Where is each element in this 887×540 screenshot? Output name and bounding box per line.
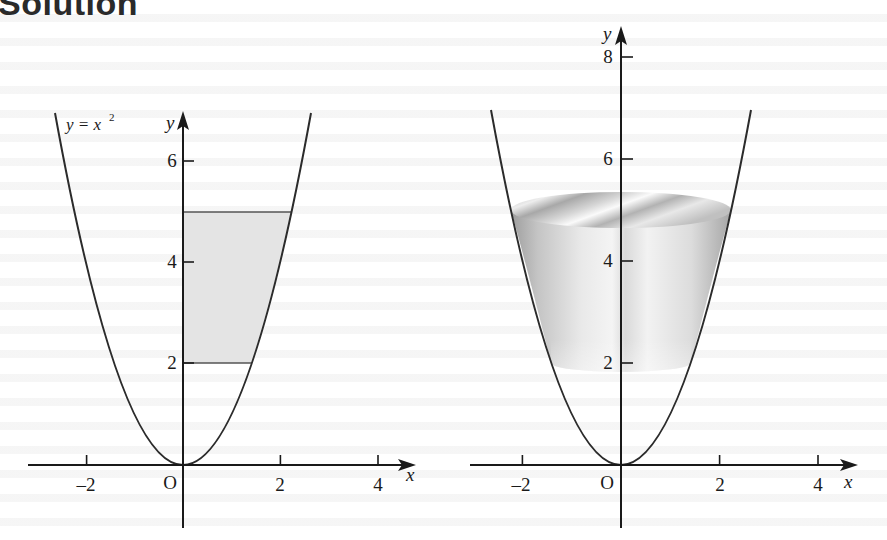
- y-tick-label: 4: [603, 250, 613, 271]
- right-graph: –2 2 4 O x 2 4 6 8 y: [470, 23, 858, 528]
- origin-label: O: [163, 472, 177, 493]
- x-tick-label: –2: [511, 474, 531, 495]
- x-tick-label: 2: [715, 474, 725, 495]
- y-tick-label: 8: [603, 46, 613, 67]
- y-tick-label: 4: [167, 251, 177, 272]
- y-axis-label: y: [601, 23, 612, 44]
- x-tick-label: 2: [275, 474, 285, 495]
- y-tick-label: 6: [603, 148, 613, 169]
- curve-equation-exponent: 2: [109, 111, 115, 123]
- x-tick-label: –2: [76, 474, 96, 495]
- figure: –2 2 4 O x 2 4 6 y y = x 2: [0, 0, 887, 540]
- x-axis-label: x: [843, 471, 853, 492]
- x-tick-label: 4: [373, 474, 383, 495]
- origin-label: O: [600, 472, 614, 493]
- y-tick-label: 2: [603, 352, 613, 373]
- y-axis-label: y: [164, 112, 175, 133]
- curve-equation-label: y = x: [64, 115, 102, 134]
- left-graph: –2 2 4 O x 2 4 6 y y = x 2: [28, 111, 416, 528]
- x-axis-label: x: [405, 464, 415, 485]
- y-tick-label: 2: [167, 352, 177, 373]
- y-tick-label: 6: [167, 150, 177, 171]
- x-tick-label: 4: [813, 474, 823, 495]
- shaded-region: [183, 212, 292, 363]
